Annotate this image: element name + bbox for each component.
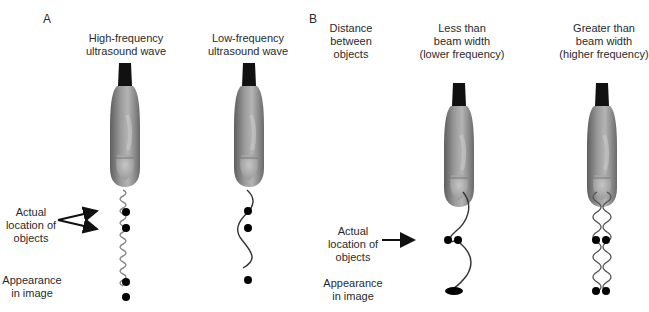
object-dot: [602, 236, 610, 244]
object-dot: [444, 236, 452, 244]
probe-low-frequency: [234, 63, 264, 187]
object-dot: [592, 236, 600, 244]
image-dot: [244, 276, 252, 284]
probe-cap-icon: [595, 83, 609, 106]
image-blur-dot: [445, 287, 463, 295]
image-dot: [592, 287, 600, 295]
diagram-graphics: [0, 0, 649, 312]
image-dot: [122, 293, 130, 301]
object-dot: [244, 224, 252, 232]
image-dot: [122, 278, 130, 286]
probe-cap-icon: [118, 63, 132, 86]
probe-high-frequency: [110, 63, 140, 187]
object-dot: [244, 207, 252, 215]
probe-cap-icon: [452, 83, 466, 106]
probe-lower-frequency: [444, 83, 474, 207]
object-dot: [454, 236, 462, 244]
probe-higher-frequency: [587, 83, 617, 207]
arrow-icon: [58, 211, 97, 220]
object-dot: [122, 208, 130, 216]
arrow-icon: [58, 220, 97, 229]
high-frequency-wave: [120, 190, 126, 286]
image-dot: [602, 287, 610, 295]
object-dot: [122, 224, 130, 232]
probe-cap-icon: [242, 63, 256, 86]
